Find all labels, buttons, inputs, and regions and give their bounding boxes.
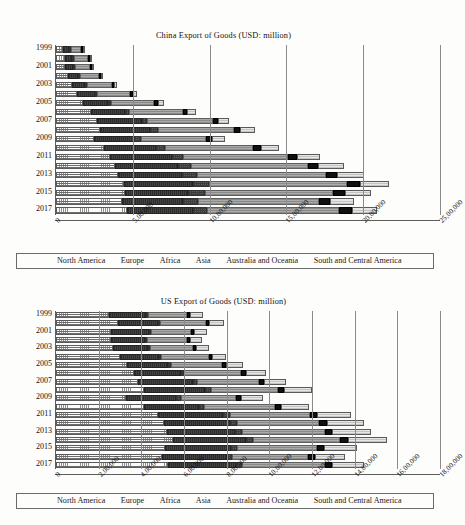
bar-segment-africa	[246, 437, 253, 443]
bar-segment-north-america	[56, 329, 111, 335]
bar-segment-south-central-america	[158, 100, 164, 106]
legend-label: Asia	[196, 257, 211, 265]
bar-segment-asia	[87, 82, 112, 88]
x-tick-label: 0	[54, 216, 62, 224]
x-tick-label: 18,00,000	[438, 452, 465, 479]
bar-segment-south-central-america	[261, 145, 279, 151]
bar-segment-asia	[74, 55, 88, 61]
bar-segment-north-america	[56, 362, 127, 368]
bar-segment-north-america	[56, 198, 122, 204]
bar-segment-asia	[129, 109, 183, 115]
x-axis-line-us	[55, 474, 440, 475]
bar-segment-north-america	[56, 412, 158, 418]
legend-label: Australia and Oceania	[226, 497, 298, 505]
legend-item: North America	[48, 497, 105, 505]
bar-row	[56, 387, 440, 393]
y-tick-label: 2009	[36, 134, 52, 142]
bar-segment-africa	[235, 429, 242, 435]
bar-row	[56, 320, 440, 326]
gridline	[184, 311, 185, 469]
bar-segment-australia-oceania	[288, 154, 298, 160]
legend-label: North America	[57, 497, 105, 505]
y-tick-label: 1999	[36, 310, 52, 318]
bar-row	[56, 420, 440, 426]
y-tick-label: 2011	[36, 152, 52, 160]
bar-row: 2015	[56, 190, 440, 196]
bar-segment-europe	[91, 109, 124, 115]
bar-segment-north-america	[56, 370, 134, 376]
bar-segment-europe	[110, 154, 172, 160]
bar-group-us: 1999200120032005200720092011201320152017	[56, 311, 440, 469]
y-tick-label: 2017	[36, 205, 52, 213]
bar-row: 2005	[56, 362, 440, 368]
bar-segment-europe	[120, 354, 158, 360]
bar-segment-asia	[147, 118, 212, 124]
bar-segment-south-central-america	[264, 379, 286, 385]
plot-area-us: 1999200120032005200720092011201320152017	[55, 311, 440, 469]
bar-row: 1999	[56, 312, 440, 318]
legend-swatch-asia-icon	[187, 258, 193, 264]
legend-label: Africa	[160, 497, 181, 505]
legend-swatch-europe-icon	[112, 258, 118, 264]
bar-segment-south-central-america	[337, 172, 364, 178]
bar-row: 2013	[56, 429, 440, 435]
bar-row: 2001	[56, 64, 440, 70]
bar-segment-australia-oceania	[339, 207, 351, 213]
bar-row	[56, 181, 440, 187]
bar-segment-australia-oceania	[319, 198, 330, 204]
bar-segment-australia-oceania	[326, 172, 338, 178]
bar-segment-europe	[113, 345, 148, 351]
legend-item: Europe	[112, 497, 144, 505]
plot-wrapper-us: 1999200120032005200720092011201320152017…	[0, 311, 447, 469]
gridline	[312, 311, 313, 469]
bar-segment-asia	[71, 46, 82, 52]
legend-item: Australia and Oceania	[218, 497, 298, 505]
legend-item: Europe	[112, 257, 144, 265]
bar-segment-north-america	[56, 190, 125, 196]
bar-segment-north-america	[56, 55, 65, 61]
bar-segment-south-central-america	[281, 404, 309, 410]
bar-segment-south-central-america	[194, 329, 207, 335]
bar-segment-north-america	[56, 354, 120, 360]
bar-segment-asia	[237, 420, 319, 426]
legend-item: North America	[48, 257, 105, 265]
y-tick-label: 2017	[36, 460, 52, 468]
bar-row	[56, 91, 440, 97]
bar-segment-europe	[109, 312, 145, 318]
bar-segment-south-central-america	[318, 163, 343, 169]
bar-segment-asia	[151, 329, 191, 335]
bar-segment-south-central-america	[240, 127, 255, 133]
bar-segment-europe	[118, 172, 183, 178]
legend-label: Asia	[196, 497, 211, 505]
bar-segment-asia	[158, 127, 233, 133]
bar-segment-europe	[77, 91, 95, 97]
bar-segment-africa	[172, 154, 183, 160]
bar-segment-europe	[118, 320, 158, 326]
bar-segment-south-central-america	[83, 46, 85, 52]
bar-segment-europe	[165, 445, 230, 451]
bar-segment-africa	[182, 172, 196, 178]
gridline	[397, 311, 398, 469]
bar-segment-north-america	[56, 136, 94, 142]
bar-segment-asia	[197, 172, 326, 178]
legend-swatch-south-central-america-icon	[305, 258, 311, 264]
y-tick-label: 2001	[36, 327, 52, 335]
bar-segment-australia-oceania	[325, 429, 333, 435]
bar-row: 1999	[56, 46, 440, 52]
legend-item: South and Central America	[305, 257, 401, 265]
bar-segment-australia-oceania	[253, 145, 261, 151]
bar-segment-south-central-america	[332, 429, 370, 435]
legend-label: Australia and Oceania	[226, 257, 298, 265]
bar-row	[56, 145, 440, 151]
y-tick-label: 2007	[36, 377, 52, 385]
legend-label: South and Central America	[314, 257, 402, 265]
bar-group-china: 1999200120032005200720092011201320152017	[56, 45, 440, 215]
bar-row: 2005	[56, 100, 440, 106]
bar-row: 2013	[56, 172, 440, 178]
bar-segment-south-central-america	[330, 198, 354, 204]
bar-segment-south-central-america	[284, 387, 312, 393]
bar-segment-asia	[80, 73, 99, 79]
legend-swatch-australia-oceania-icon	[218, 498, 224, 504]
legend-swatch-africa-icon	[151, 258, 157, 264]
plot-area-china: 1999200120032005200720092011201320152017	[55, 45, 440, 215]
